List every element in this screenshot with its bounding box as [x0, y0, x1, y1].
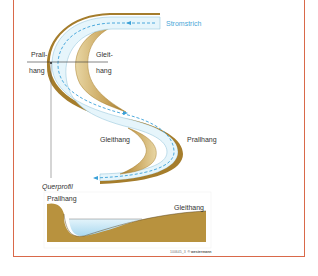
- lower-cut-bank-label: Prallhang: [187, 136, 217, 143]
- upper-cut-bank-label-1: Prall-: [31, 51, 47, 58]
- stromstrich-label: Stromstrich: [166, 20, 201, 27]
- meander-diagram: [0, 0, 318, 276]
- upper-slip-off-label-1: Gleit-: [96, 51, 113, 58]
- caption-copyright: © westermann: [188, 250, 212, 254]
- caption-id: 100645_3: [170, 250, 186, 254]
- upper-slip-off-label-2: hang: [96, 67, 112, 74]
- cross-section-slip-off-label: Gleithang: [174, 204, 204, 211]
- upper-cut-bank-label-2: hang: [29, 67, 45, 74]
- lower-slip-off-label: Gleithang: [100, 136, 130, 143]
- cross-section-cut-bank-label: Prallhang: [47, 195, 77, 202]
- current-arrow-bottom: [93, 176, 98, 180]
- figure-caption: 100645_3 © westermann: [170, 250, 212, 254]
- cross-section-title: Querprofil: [42, 183, 73, 190]
- section-point: [50, 62, 52, 64]
